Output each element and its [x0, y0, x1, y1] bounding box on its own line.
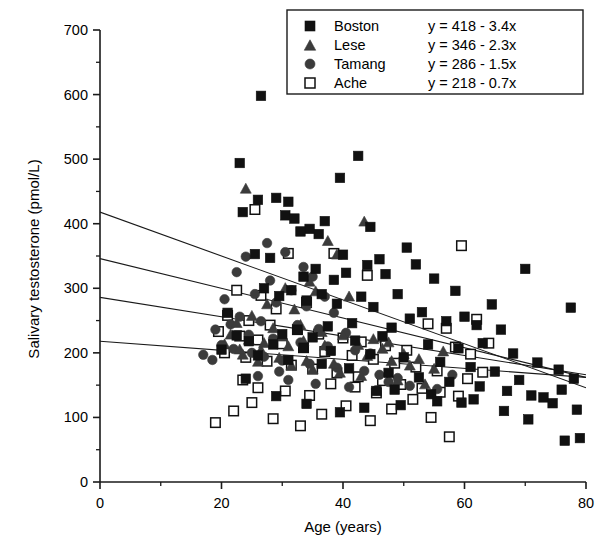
- x-axis-title-wrap: Age (years): [100, 518, 586, 536]
- point-boston: [244, 336, 254, 346]
- point-tamang: [375, 370, 385, 380]
- point-boston: [256, 91, 266, 101]
- point-boston: [472, 320, 482, 330]
- point-ache: [426, 413, 436, 423]
- point-tamang: [281, 247, 291, 257]
- point-boston: [271, 391, 281, 401]
- point-boston: [287, 285, 297, 295]
- point-ache: [232, 285, 242, 295]
- legend-label-ache: Ache: [334, 75, 367, 91]
- point-tamang: [262, 238, 272, 248]
- point-boston: [384, 368, 394, 378]
- point-boston: [445, 377, 455, 387]
- legend-equation-tamang: y = 286 - 1.5x: [428, 56, 517, 72]
- point-boston: [460, 312, 470, 322]
- point-boston: [527, 391, 537, 401]
- point-ache: [466, 349, 476, 359]
- point-boston: [241, 374, 251, 384]
- point-boston: [381, 269, 391, 279]
- y-tick-label: 600: [64, 87, 88, 103]
- point-boston: [524, 415, 534, 425]
- y-tick-label: 700: [64, 22, 88, 38]
- point-boston: [557, 385, 567, 395]
- point-boston: [293, 325, 303, 335]
- point-boston: [387, 323, 397, 333]
- x-tick-label: 60: [456, 495, 472, 511]
- point-boston: [265, 253, 275, 262]
- point-boston: [432, 397, 442, 407]
- point-boston: [372, 386, 382, 396]
- point-tamang: [329, 308, 339, 318]
- point-boston: [487, 300, 497, 310]
- point-boston: [363, 260, 373, 270]
- point-ache: [305, 391, 315, 401]
- point-tamang: [284, 375, 294, 385]
- point-boston: [320, 216, 330, 226]
- legend-label-lese: Lese: [334, 37, 365, 53]
- point-boston: [490, 367, 500, 377]
- point-boston: [396, 400, 406, 410]
- point-boston: [299, 343, 309, 353]
- x-axis-title: Age (years): [304, 518, 382, 535]
- point-boston: [469, 395, 479, 405]
- point-ache: [445, 432, 455, 442]
- point-boston: [350, 336, 360, 346]
- point-boston: [278, 329, 288, 339]
- point-boston: [268, 340, 278, 350]
- y-tick-label: 100: [64, 409, 88, 425]
- point-ache: [457, 241, 467, 251]
- point-boston: [271, 193, 281, 203]
- point-boston: [429, 274, 439, 284]
- point-ache: [366, 416, 376, 426]
- point-lese: [368, 334, 379, 344]
- x-tick-label: 40: [335, 495, 351, 511]
- point-boston: [302, 399, 312, 409]
- x-tick-label: 20: [213, 495, 229, 511]
- point-boston: [499, 406, 509, 416]
- point-ache: [211, 418, 221, 428]
- point-boston: [344, 364, 354, 374]
- point-boston: [521, 264, 531, 274]
- point-boston: [259, 284, 269, 294]
- point-boston: [390, 385, 400, 395]
- point-boston: [284, 355, 294, 365]
- point-lese: [322, 236, 333, 246]
- point-ache: [463, 374, 473, 384]
- point-boston: [393, 289, 403, 299]
- point-ache: [387, 404, 397, 414]
- point-tamang: [256, 316, 266, 326]
- point-boston: [502, 386, 512, 396]
- point-boston: [572, 405, 582, 415]
- regression-lines: [100, 212, 586, 388]
- point-ache: [247, 398, 257, 408]
- point-boston: [575, 433, 585, 443]
- point-ache: [317, 409, 327, 419]
- point-boston: [308, 333, 318, 343]
- x-tick-label: 80: [578, 495, 594, 511]
- point-ache: [363, 271, 373, 281]
- point-boston: [232, 331, 242, 341]
- point-boston: [466, 362, 476, 372]
- point-boston: [478, 338, 488, 348]
- point-boston: [411, 260, 421, 270]
- point-tamang: [220, 295, 230, 305]
- point-boston: [290, 214, 300, 224]
- point-boston: [417, 307, 427, 317]
- point-ache: [326, 379, 336, 389]
- point-boston: [296, 227, 306, 237]
- point-boston: [399, 353, 409, 363]
- point-ache: [408, 395, 418, 405]
- point-boston: [302, 296, 312, 306]
- point-boston: [305, 224, 315, 234]
- point-tamang: [199, 350, 209, 360]
- point-boston: [338, 250, 348, 259]
- legend-label-tamang: Tamang: [334, 56, 386, 72]
- point-tamang: [274, 367, 284, 377]
- point-boston: [356, 292, 366, 302]
- point-boston: [457, 398, 467, 408]
- legend-equation-ache: y = 218 - 0.7x: [428, 75, 517, 91]
- y-axis-title: Salivary testosterone (pmol/L): [25, 159, 42, 358]
- point-boston: [435, 357, 445, 367]
- point-boston: [323, 322, 333, 332]
- point-boston: [326, 346, 336, 356]
